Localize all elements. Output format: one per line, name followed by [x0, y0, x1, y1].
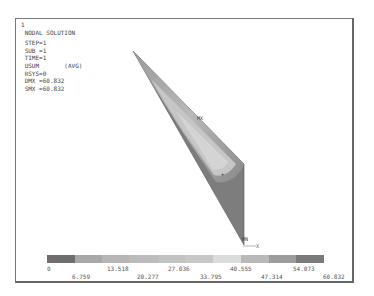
plot-window: 1 NODAL SOLUTION STEP=1 SUB =1 TIME=1 US…: [15, 18, 354, 283]
legend-band-2: [75, 255, 103, 263]
legend-tick: 27.036: [168, 265, 190, 272]
legend-tick: 13.518: [107, 265, 129, 272]
legend-tick: 20.277: [137, 273, 159, 280]
contour-legend-bar: [47, 255, 324, 263]
x-axis-label: X: [256, 243, 259, 249]
legend-tick: 0: [47, 265, 51, 272]
legend-band-1: [47, 255, 75, 263]
legend-band-5: [158, 255, 186, 263]
legend-band-3: [102, 255, 130, 263]
legend-band-4: [130, 255, 158, 263]
legend-tick: 33.795: [200, 273, 222, 280]
legend-tick: 6.759: [72, 273, 90, 280]
mn-marker: MN: [242, 236, 248, 242]
legend-tick: 54.073: [293, 265, 315, 272]
legend-tick: 47.314: [261, 273, 283, 280]
legend-band-9: [269, 255, 297, 263]
legend-band-8: [241, 255, 269, 263]
mx-marker: MX: [197, 115, 203, 121]
legend-tick: 40.555: [230, 265, 252, 272]
legend-band-10: [296, 255, 324, 263]
legend-band-6: [186, 255, 214, 263]
legend-band-7: [213, 255, 241, 263]
svg-text:+: +: [221, 171, 224, 177]
fem-model: MX + MN X: [16, 19, 355, 284]
legend-tick: 60.832: [323, 273, 345, 280]
